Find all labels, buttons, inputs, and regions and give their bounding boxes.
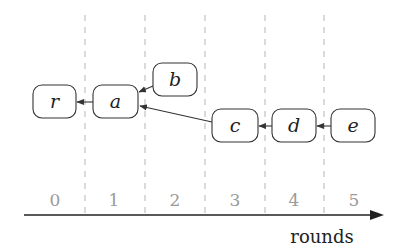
node-e: e (331, 109, 375, 142)
node-r: r (33, 85, 76, 118)
tick-2: 2 (170, 190, 181, 210)
node-a: a (93, 85, 138, 118)
node-a-label: a (110, 90, 121, 112)
node-c-label: c (230, 114, 241, 136)
node-c: c (212, 109, 258, 142)
tick-4: 4 (289, 190, 300, 210)
axis-arrowhead-icon (370, 210, 384, 220)
tick-0: 0 (50, 190, 61, 210)
edge-c-a (140, 106, 212, 122)
node-e-label: e (347, 114, 358, 136)
tick-5: 5 (349, 190, 360, 210)
rounds-diagram: r a b c d e 0 1 2 3 4 5 rounds (0, 0, 402, 251)
tick-3: 3 (230, 190, 241, 210)
tick-1: 1 (109, 190, 120, 210)
node-d: d (272, 109, 316, 142)
node-d-label: d (288, 114, 300, 136)
node-b-label: b (169, 68, 181, 90)
axis-label: rounds (290, 226, 353, 247)
node-b: b (153, 63, 197, 96)
edge-b-a (139, 86, 153, 92)
